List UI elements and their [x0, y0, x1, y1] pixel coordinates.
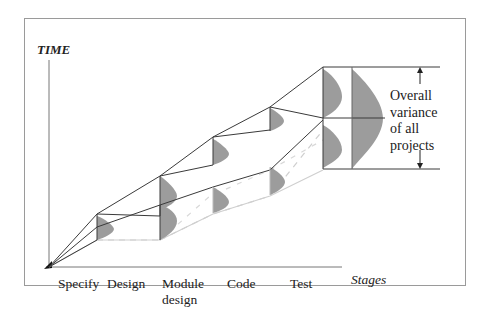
project-lines [49, 67, 440, 267]
curve-module-lower [160, 205, 177, 240]
stage-label-test: Test [290, 276, 312, 291]
stage-label-module: Module [162, 276, 204, 291]
stage-label-design: Design [107, 276, 145, 291]
stage-label-code: Code [227, 276, 256, 291]
stage-label-module-line2: design [162, 292, 197, 307]
annotation-line-3: of all [390, 121, 437, 138]
annotation-line-4: projects [390, 138, 437, 155]
stage-label-specify: Specify [58, 276, 99, 291]
x-axis-label: Stages [351, 272, 386, 287]
curve-final-upper [323, 69, 342, 118]
axes [44, 60, 342, 269]
overall-variance-annotation: Overall variance of all projects [390, 88, 437, 154]
curve-code-upper [213, 139, 229, 165]
curve-module-upper [160, 176, 177, 210]
curve-test-top [270, 108, 284, 131]
curve-test-lower [270, 167, 285, 195]
lower-bound-lines [49, 130, 323, 267]
distribution-curves [97, 69, 383, 240]
annotation-line-1: Overall [390, 88, 437, 105]
curve-final-lower [323, 125, 342, 168]
y-axis-label: TIME [37, 42, 70, 57]
curve-overall [352, 69, 383, 169]
curve-design [97, 216, 114, 240]
annotation-line-2: variance [390, 105, 437, 122]
